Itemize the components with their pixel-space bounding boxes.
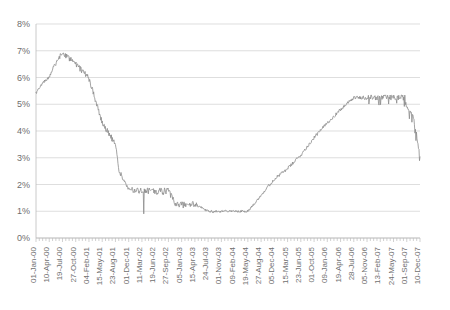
x-axis-tick-label: 04-Feb-01 (82, 246, 91, 283)
x-axis-tick-label: 01-Sep-07 (400, 246, 409, 284)
x-axis-tick-label: 23-Aug-01 (108, 246, 117, 284)
data-series-line (36, 53, 420, 214)
x-axis-tick-label: 23-Jun-05 (294, 246, 303, 283)
y-axis-tick-label: 4% (17, 126, 30, 136)
x-axis-tick-label: 15-Mar-05 (281, 246, 290, 283)
x-axis-tick-label: 05-Nov-06 (360, 246, 369, 284)
y-axis-tick-label: 3% (17, 153, 30, 163)
x-axis-tick-label: 27-Aug-04 (254, 246, 263, 284)
x-axis-tick-label: 24-Jul-03 (201, 246, 210, 280)
x-axis-tick-label: 27-Oct-00 (69, 246, 78, 282)
x-axis-tick-label: 10-Apr-00 (42, 246, 51, 282)
x-axis-tick-label: 19-Jun-02 (148, 246, 157, 283)
y-axis-tick-label: 5% (17, 99, 30, 109)
x-axis-tick-label: 19-Apr-06 (334, 246, 343, 282)
x-axis-tick-label: 01-Dec-01 (122, 246, 131, 284)
x-axis-tick-label: 19-May-04 (241, 246, 250, 285)
x-axis-tick-label: 13-Feb-07 (373, 246, 382, 283)
x-axis-tick-label: 09-Feb-04 (228, 246, 237, 283)
x-axis-tick-label: 15-May-01 (95, 246, 104, 285)
x-axis-tick-label: 24-May-07 (387, 246, 396, 285)
x-axis-tick-label: 09-Jan-06 (320, 246, 329, 283)
y-axis-tick-label: 8% (17, 19, 30, 29)
line-chart: 0%1%2%3%4%5%6%7%8%01-Jan-0010-Apr-0019-J… (0, 0, 450, 310)
x-axis-tick-label: 28-Jul-06 (347, 246, 356, 280)
x-axis-tick-label: 05-Dec-04 (267, 246, 276, 284)
x-axis-tick-label: 01-Oct-05 (307, 246, 316, 282)
x-axis-tick-label: 10-Dec-07 (413, 246, 422, 284)
x-axis-tick-label: 05-Jan-03 (175, 246, 184, 283)
x-axis-tick-label: 15-Apr-03 (188, 246, 197, 282)
x-axis-tick-label: 27-Sep-02 (161, 246, 170, 284)
y-axis-tick-label: 6% (17, 73, 30, 83)
x-axis-tick-label: 11-Mar-02 (135, 246, 144, 283)
y-axis-tick-label: 1% (17, 206, 30, 216)
y-axis-tick-label: 0% (17, 233, 30, 243)
chart-container: 0%1%2%3%4%5%6%7%8%01-Jan-0010-Apr-0019-J… (0, 0, 450, 310)
x-axis-tick-label: 01-Jan-00 (29, 246, 38, 283)
y-axis-tick-label: 7% (17, 46, 30, 56)
x-axis-tick-label: 01-Nov-03 (214, 246, 223, 284)
x-axis-tick-label: 19-Jul-00 (55, 246, 64, 280)
y-axis-tick-label: 2% (17, 180, 30, 190)
